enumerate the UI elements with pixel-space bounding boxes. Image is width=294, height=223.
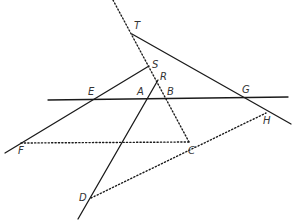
line-FS	[5, 66, 149, 153]
point-label-r: R	[160, 71, 167, 82]
point-label-a: A	[136, 86, 144, 97]
point-label-d: D	[79, 192, 87, 203]
solid-lines	[5, 34, 291, 219]
geometry-diagram: TSRABEGHCFD	[0, 0, 294, 223]
line-EG	[48, 97, 288, 100]
point-label-g: G	[242, 84, 250, 95]
line-DH	[91, 113, 266, 198]
point-label-b: B	[167, 86, 174, 97]
point-label-h: H	[263, 115, 271, 126]
line-FC	[21, 142, 189, 143]
point-label-s: S	[152, 59, 159, 70]
line-TC	[113, 0, 189, 142]
point-label-f: F	[18, 145, 24, 156]
point-label-c: C	[188, 145, 195, 156]
point-label-t: T	[134, 20, 141, 31]
point-labels: TSRABEGHCFD	[18, 20, 271, 203]
line-DR	[78, 80, 158, 219]
point-label-e: E	[88, 86, 95, 97]
